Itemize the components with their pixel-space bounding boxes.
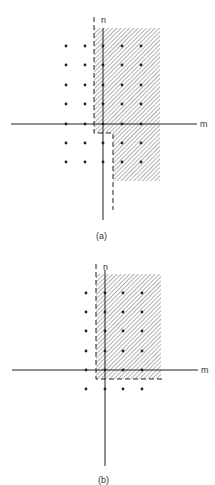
m-axis-label-a: m [200, 119, 208, 129]
diagram-canvas: m n (a) m n (b) [0, 0, 215, 485]
m-axis-label-b: m [201, 365, 209, 375]
figure-a: m n (a) [11, 15, 208, 241]
caption-b: (b) [98, 475, 109, 485]
caption-a: (a) [96, 231, 107, 241]
figure-b: m n (b) [12, 262, 209, 485]
shaded-region-b [96, 274, 161, 379]
n-axis-label-a: n [101, 15, 106, 25]
n-axis-label-b: n [103, 262, 108, 272]
